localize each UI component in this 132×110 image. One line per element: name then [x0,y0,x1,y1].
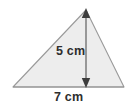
base-dimension-label: 7 cm [54,91,83,104]
geometry-figure: 5 cm 7 cm [0,0,132,110]
height-dimension-label: 5 cm [56,45,85,58]
